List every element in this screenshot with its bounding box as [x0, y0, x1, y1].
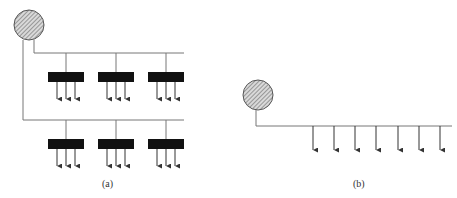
caption-b: (b) [353, 178, 365, 189]
unit-block [48, 72, 84, 82]
unit-row-1 [48, 53, 184, 99]
unit-block [148, 139, 184, 149]
source-circle-a [14, 10, 44, 40]
diagram-canvas [0, 0, 457, 198]
unit-block [48, 139, 84, 149]
unit-block [98, 139, 134, 149]
panel-b [243, 80, 452, 150]
unit-row-2 [48, 120, 184, 166]
caption-a: (a) [102, 178, 113, 189]
panel-a [14, 10, 184, 166]
source-circle-b [243, 80, 273, 110]
unit-block [98, 72, 134, 82]
unit-block [148, 72, 184, 82]
